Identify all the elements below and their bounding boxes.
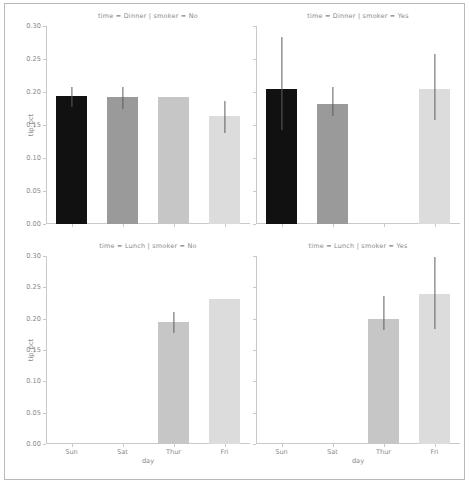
x-tick-mark <box>72 444 73 447</box>
plot-area-lunch-yes: SunSatThurFriday <box>256 256 460 444</box>
x-tick-mark <box>123 224 124 227</box>
x-tick-mark <box>435 444 436 447</box>
x-tick-label: Thur <box>166 448 181 456</box>
facet-panel-lunch-yes: time = Lunch | smoker = Yes SunSatThurFr… <box>256 256 460 444</box>
facet-panel-dinner-no: time = Dinner | smoker = No 0.000.050.10… <box>46 26 250 224</box>
y-tick-mark <box>43 224 46 225</box>
facet-panel-dinner-yes: time = Dinner | smoker = Yes <box>256 26 460 224</box>
error-bar <box>71 87 72 107</box>
x-tick-mark <box>225 224 226 227</box>
bar[interactable] <box>107 97 139 224</box>
facet-title-dinner-yes: time = Dinner | smoker = Yes <box>256 12 460 20</box>
bar[interactable] <box>368 319 400 444</box>
x-tick-mark <box>333 224 334 227</box>
y-tick-mark <box>43 287 46 288</box>
y-axis-label: tip_pct <box>27 339 35 361</box>
y-tick-mark <box>43 158 46 159</box>
bar[interactable] <box>317 104 349 224</box>
bar[interactable] <box>158 322 190 444</box>
y-tick-mark <box>43 256 46 257</box>
x-axis-label: day <box>256 457 460 465</box>
y-tick-mark <box>253 92 256 93</box>
error-bar <box>281 37 282 130</box>
x-tick-label: Sat <box>327 448 338 456</box>
facet-title-lunch-no: time = Lunch | smoker = No <box>46 242 250 250</box>
y-tick-label: 0.30 <box>26 22 41 30</box>
facet-title-lunch-yes: time = Lunch | smoker = Yes <box>256 242 460 250</box>
error-bar <box>434 257 435 330</box>
y-tick-mark <box>253 256 256 257</box>
bar[interactable] <box>158 97 190 224</box>
bar[interactable] <box>56 96 88 224</box>
y-tick-mark <box>43 413 46 414</box>
y-tick-mark <box>253 319 256 320</box>
y-tick-mark <box>253 287 256 288</box>
plot-area-dinner-yes <box>256 26 460 224</box>
x-tick-mark <box>225 444 226 447</box>
x-tick-label: Sun <box>65 448 78 456</box>
y-tick-mark <box>43 92 46 93</box>
bar[interactable] <box>209 299 241 444</box>
facet-panel-lunch-no: time = Lunch | smoker = No 0.000.050.100… <box>46 256 250 444</box>
y-tick-mark <box>253 26 256 27</box>
figure-canvas: time = Dinner | smoker = No 0.000.050.10… <box>0 0 469 484</box>
y-tick-mark <box>253 224 256 225</box>
y-tick-mark <box>253 413 256 414</box>
y-axis-line <box>46 256 47 444</box>
x-axis-label: day <box>46 457 250 465</box>
x-tick-mark <box>282 444 283 447</box>
x-tick-mark <box>174 224 175 227</box>
error-bar <box>434 54 435 119</box>
y-tick-label: 0.10 <box>26 154 41 162</box>
y-tick-mark <box>253 59 256 60</box>
y-tick-mark <box>43 381 46 382</box>
y-tick-label: 0.25 <box>26 283 41 291</box>
y-tick-mark <box>43 444 46 445</box>
y-tick-label: 0.10 <box>26 377 41 385</box>
x-tick-label: Fri <box>431 448 439 456</box>
error-bar <box>383 296 384 330</box>
error-bar <box>173 312 174 333</box>
y-tick-mark <box>43 26 46 27</box>
x-tick-mark <box>384 444 385 447</box>
y-tick-label: 0.20 <box>26 88 41 96</box>
y-tick-label: 0.30 <box>26 252 41 260</box>
y-tick-mark <box>253 191 256 192</box>
y-tick-mark <box>43 319 46 320</box>
y-axis-line <box>256 26 257 224</box>
y-tick-label: 0.00 <box>26 220 41 228</box>
x-tick-mark <box>123 444 124 447</box>
y-tick-mark <box>43 350 46 351</box>
y-tick-mark <box>43 125 46 126</box>
plot-area-dinner-no: 0.000.050.100.150.200.250.30tip_pct <box>46 26 250 224</box>
x-tick-mark <box>282 224 283 227</box>
x-tick-label: Thur <box>376 448 391 456</box>
x-tick-mark <box>435 224 436 227</box>
y-axis-label: tip_pct <box>27 114 35 136</box>
y-tick-label: 0.20 <box>26 315 41 323</box>
x-tick-label: Sun <box>275 448 288 456</box>
y-axis-line <box>46 26 47 224</box>
y-axis-line <box>256 256 257 444</box>
y-tick-label: 0.00 <box>26 440 41 448</box>
y-tick-mark <box>253 158 256 159</box>
y-tick-label: 0.05 <box>26 187 41 195</box>
y-tick-mark <box>253 125 256 126</box>
x-tick-label: Fri <box>221 448 229 456</box>
y-tick-mark <box>253 381 256 382</box>
y-tick-mark <box>253 350 256 351</box>
facet-title-dinner-no: time = Dinner | smoker = No <box>46 12 250 20</box>
y-tick-mark <box>43 59 46 60</box>
y-tick-mark <box>253 444 256 445</box>
error-bar <box>122 87 123 109</box>
error-bar <box>224 101 225 133</box>
y-tick-mark <box>43 191 46 192</box>
error-bar <box>332 87 333 116</box>
x-tick-label: Sat <box>117 448 128 456</box>
y-tick-label: 0.25 <box>26 55 41 63</box>
x-tick-mark <box>174 444 175 447</box>
x-tick-mark <box>384 224 385 227</box>
x-tick-mark <box>333 444 334 447</box>
plot-area-lunch-no: 0.000.050.100.150.200.250.30tip_pctSunSa… <box>46 256 250 444</box>
y-tick-label: 0.05 <box>26 409 41 417</box>
